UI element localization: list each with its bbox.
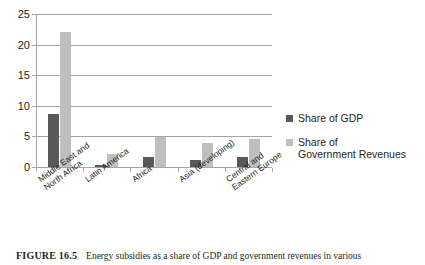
legend-swatch-icon xyxy=(286,115,293,122)
x-axis-category-labels: Middle East and North AfricaLatin Americ… xyxy=(0,172,425,240)
figure-caption-text: Energy subsidies as a share of GDP and g… xyxy=(86,251,361,261)
gridline xyxy=(36,106,272,107)
figure-caption: FIGURE 16.5Energy subsidies as a share o… xyxy=(16,250,416,262)
chart-legend: Share of GDPShare of Government Revenues xyxy=(286,112,422,172)
bar xyxy=(60,32,71,167)
bar-chart: 0510152025 Middle East and North AfricaL… xyxy=(0,0,425,240)
figure-caption-label: FIGURE 16.5 xyxy=(16,250,77,261)
gridline xyxy=(36,75,272,76)
y-axis-tick-label: 5 xyxy=(24,131,30,142)
legend-item: Share of GDP xyxy=(286,112,422,125)
bar xyxy=(155,137,166,167)
y-axis-line xyxy=(36,14,37,168)
y-axis-tick-label: 10 xyxy=(18,101,30,112)
y-axis-tick xyxy=(32,45,36,46)
gridline xyxy=(36,14,272,15)
legend-item-label: Share of GDP xyxy=(298,112,363,125)
legend-item: Share of Government Revenues xyxy=(286,136,422,161)
legend-swatch-icon xyxy=(286,139,293,146)
y-axis-tick-label: 15 xyxy=(18,70,30,81)
y-axis-tick xyxy=(32,136,36,137)
y-axis-tick xyxy=(32,106,36,107)
legend-item-label: Share of Government Revenues xyxy=(298,136,406,161)
gridline xyxy=(36,45,272,46)
y-axis-tick-label: 25 xyxy=(18,9,30,20)
y-axis-tick-label: 20 xyxy=(18,40,30,51)
figure-container: 0510152025 Middle East and North AfricaL… xyxy=(0,0,425,265)
y-axis-tick xyxy=(32,14,36,15)
y-axis-tick-labels: 0510152025 xyxy=(0,14,30,168)
y-axis-tick xyxy=(32,75,36,76)
